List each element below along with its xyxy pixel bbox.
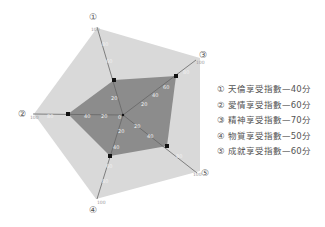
svg-text:80: 80 bbox=[47, 113, 53, 119]
svg-text:100: 100 bbox=[196, 60, 205, 65]
svg-text:20: 20 bbox=[134, 123, 140, 129]
svg-text:60: 60 bbox=[106, 163, 112, 169]
legend-item-2: ② 愛情享受指數—60分 bbox=[217, 98, 325, 114]
axis-label-1: ① bbox=[89, 12, 97, 22]
svg-text:20: 20 bbox=[141, 101, 147, 107]
axis-label-4: ④ bbox=[89, 205, 97, 215]
tick-zero: 0 bbox=[118, 114, 121, 120]
svg-text:100: 100 bbox=[91, 27, 100, 32]
legend-item-5: ⑤ 成就享受指數—60分 bbox=[217, 144, 325, 160]
svg-text:20: 20 bbox=[101, 113, 107, 119]
marker-2 bbox=[66, 112, 70, 116]
svg-text:80: 80 bbox=[176, 153, 182, 159]
marker-3 bbox=[174, 74, 178, 78]
marker-4 bbox=[108, 154, 112, 158]
radar-chart: 80 60 20 80 40 20 20 40 60 80 20 40 80 2… bbox=[0, 0, 210, 227]
svg-text:80: 80 bbox=[183, 69, 189, 75]
center-point bbox=[122, 114, 124, 116]
legend-item-3: ③ 精神享受指數—70分 bbox=[217, 113, 325, 129]
svg-text:20: 20 bbox=[111, 95, 117, 101]
svg-text:100: 100 bbox=[30, 115, 39, 120]
axis-label-5: ⑤ bbox=[201, 168, 209, 178]
marker-1 bbox=[112, 78, 116, 82]
axis-label-3: ③ bbox=[199, 50, 207, 60]
legend-item-4: ④ 物質享受指數—50分 bbox=[217, 129, 325, 145]
legend: ① 天倫享受指數—40分 ② 愛情享受指數—60分 ③ 精神享受指數—70分 ④… bbox=[217, 82, 325, 160]
svg-text:100: 100 bbox=[97, 200, 106, 205]
axis-label-2: ② bbox=[18, 109, 26, 119]
svg-text:40: 40 bbox=[113, 144, 119, 150]
svg-text:40: 40 bbox=[147, 133, 153, 139]
svg-text:20: 20 bbox=[118, 128, 124, 134]
svg-text:40: 40 bbox=[84, 113, 90, 119]
legend-item-1: ① 天倫享受指數—40分 bbox=[217, 82, 325, 98]
svg-text:40: 40 bbox=[152, 92, 158, 98]
svg-text:80: 80 bbox=[102, 178, 108, 184]
svg-text:80: 80 bbox=[102, 41, 108, 47]
svg-text:60: 60 bbox=[106, 58, 112, 64]
marker-5 bbox=[165, 144, 169, 148]
svg-text:60: 60 bbox=[163, 84, 169, 90]
